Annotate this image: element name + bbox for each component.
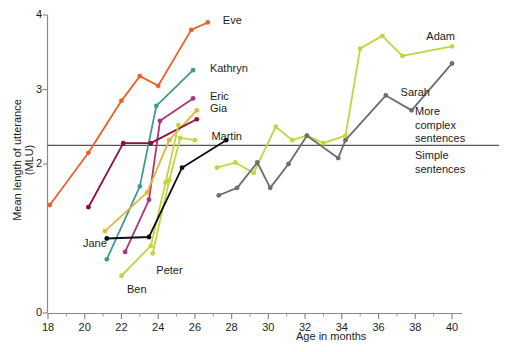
- data-point: [400, 54, 405, 59]
- y-tick-label: 4: [26, 8, 42, 20]
- data-point: [193, 138, 198, 143]
- data-point: [194, 108, 199, 113]
- x-tick-label: 30: [260, 321, 276, 333]
- threshold-above-caption: Morecomplexsentences: [415, 105, 465, 145]
- data-point: [178, 136, 183, 141]
- data-point: [358, 46, 363, 51]
- data-point: [343, 138, 348, 143]
- data-point: [450, 44, 455, 49]
- data-point: [176, 123, 181, 128]
- data-point: [145, 190, 150, 195]
- data-point: [147, 235, 152, 240]
- threshold-below-caption: Simplesentences: [415, 149, 465, 175]
- data-point: [137, 74, 142, 79]
- data-point: [189, 28, 194, 33]
- data-point: [290, 138, 295, 143]
- threshold-above-line: sentences: [415, 132, 465, 145]
- series-label-sarah: Sarah: [401, 86, 430, 99]
- x-tick-label: 32: [297, 321, 313, 333]
- data-point: [273, 124, 278, 129]
- data-point: [156, 83, 161, 88]
- series-line: [107, 70, 193, 259]
- data-point: [150, 251, 155, 256]
- series-label-jane: Jane: [83, 237, 107, 250]
- x-tick-label: 20: [77, 321, 93, 333]
- data-point: [305, 133, 310, 138]
- data-point: [268, 185, 273, 190]
- series-label-peter: Peter: [156, 264, 182, 277]
- data-point: [233, 160, 238, 165]
- series-eve: [47, 20, 210, 207]
- mlu-line-chart: EveKathrynEricGiaJaneBenPeterMartinAdamS…: [0, 0, 507, 352]
- data-point: [137, 184, 142, 189]
- data-point: [450, 61, 455, 66]
- data-point: [191, 68, 196, 73]
- data-point: [148, 244, 153, 249]
- threshold-below-line: Simple: [415, 149, 465, 162]
- x-tick-label: 22: [113, 321, 129, 333]
- plot-canvas: [0, 0, 507, 352]
- threshold-below-line: sentences: [415, 163, 465, 176]
- data-point: [286, 162, 291, 167]
- data-point: [191, 96, 196, 101]
- data-point: [154, 103, 159, 108]
- data-point: [180, 165, 185, 170]
- x-tick-label: 36: [371, 321, 387, 333]
- threshold-above-line: More: [415, 105, 465, 118]
- data-point: [336, 156, 341, 161]
- series-lines: [47, 20, 454, 278]
- data-point: [148, 141, 153, 146]
- data-point: [167, 138, 172, 143]
- series-label-kathryn: Kathryn: [210, 62, 248, 75]
- data-point: [409, 108, 414, 113]
- series-eric: [123, 96, 196, 254]
- data-point: [119, 273, 124, 278]
- threshold-above-line: complex: [415, 119, 465, 132]
- series-peter: [150, 136, 197, 256]
- series-line: [50, 22, 208, 205]
- data-point: [167, 178, 172, 183]
- series-label-eve: Eve: [223, 14, 242, 27]
- x-tick-label: 34: [334, 321, 350, 333]
- data-point: [251, 171, 256, 176]
- series-line: [153, 138, 195, 253]
- data-point: [147, 197, 152, 202]
- data-point: [216, 193, 221, 198]
- data-point: [86, 150, 91, 155]
- series-gia: [103, 108, 200, 233]
- data-point: [86, 205, 91, 210]
- data-point: [123, 250, 128, 255]
- data-point: [103, 229, 108, 234]
- x-tick-label: 40: [444, 321, 460, 333]
- data-point: [104, 257, 109, 262]
- data-point: [235, 185, 240, 190]
- x-tick-label: 18: [40, 321, 56, 333]
- series-label-gia: Gia: [210, 102, 227, 115]
- data-point: [380, 33, 385, 38]
- data-point: [47, 203, 52, 208]
- y-tick-label: 2: [26, 157, 42, 169]
- data-point: [121, 141, 126, 146]
- series-label-ben: Ben: [127, 283, 147, 296]
- data-point: [383, 93, 388, 98]
- x-tick-label: 28: [224, 321, 240, 333]
- data-point: [119, 98, 124, 103]
- series-label-adam: Adam: [426, 30, 455, 43]
- series-kathryn: [104, 68, 195, 262]
- axes-group: [43, 15, 462, 319]
- x-tick-label: 26: [187, 321, 203, 333]
- data-point: [255, 160, 260, 165]
- x-tick-label: 24: [150, 321, 166, 333]
- series-line: [88, 119, 196, 207]
- data-point: [321, 141, 326, 146]
- y-tick-label: 0: [26, 306, 42, 318]
- data-point: [194, 117, 199, 122]
- data-point: [158, 118, 163, 123]
- data-point: [215, 165, 220, 170]
- series-label-martin: Martin: [211, 130, 242, 143]
- x-tick-label: 38: [407, 321, 423, 333]
- data-point: [205, 20, 210, 25]
- y-tick-label: 3: [26, 83, 42, 95]
